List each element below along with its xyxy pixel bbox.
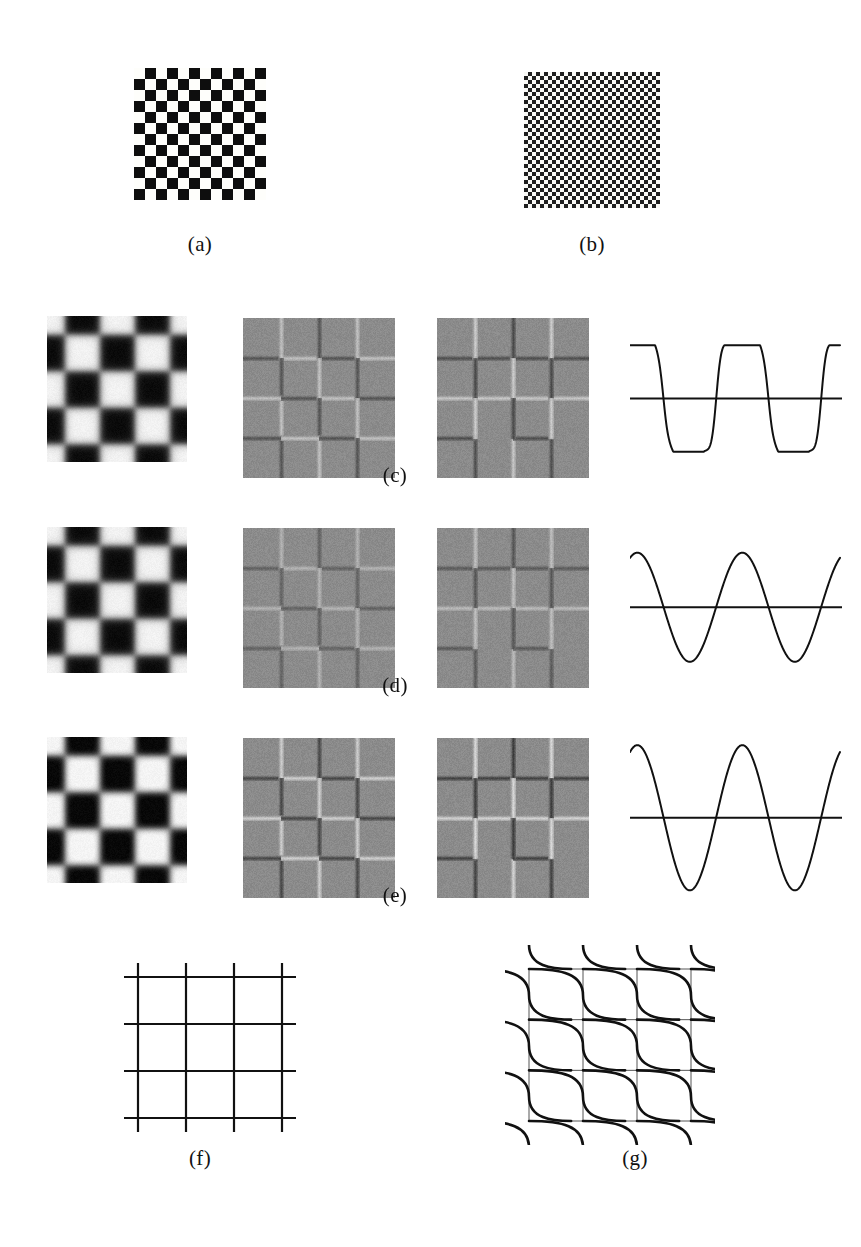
line-grid-panel-f: [110, 955, 310, 1140]
blurred-checkerboard-canvas-c: [47, 316, 187, 462]
edge-response-grid-orthogonal-row-e: [243, 738, 395, 898]
caption-g: (g): [595, 1146, 675, 1171]
checkerboard-coarse-panel-a: [134, 68, 266, 200]
edge-grid-canvas-e1: [243, 738, 395, 898]
edge-response-grid-staircase-row-c: [437, 318, 589, 478]
edge-grid-canvas-c1: [243, 318, 395, 478]
waveform-svg-c: [630, 316, 850, 466]
blurred-checkerboard-canvas-e: [47, 737, 187, 883]
figure-root: (a) (b) (c) (d) (e) (f): [0, 0, 861, 1247]
caption-a: (a): [150, 232, 250, 257]
waveform-row-e: [630, 727, 850, 892]
distorted-grid-svg-g: [505, 945, 715, 1145]
waveform-row-d: [630, 522, 850, 677]
caption-b: (b): [542, 232, 642, 257]
edge-grid-canvas-d2: [437, 528, 589, 688]
caption-e: (e): [345, 883, 445, 908]
waveform-svg-e: [630, 727, 850, 892]
caption-f: (f): [160, 1146, 240, 1171]
blurred-checkerboard-row-e: [47, 737, 187, 883]
waveform-svg-d: [630, 522, 850, 677]
caption-c: (c): [345, 463, 445, 488]
edge-response-grid-staircase-row-e: [437, 738, 589, 898]
line-grid-svg-f: [110, 955, 310, 1140]
blurred-checkerboard-row-c: [47, 316, 187, 462]
edge-response-grid-orthogonal-row-d: [243, 528, 395, 688]
waveform-row-c: [630, 316, 850, 466]
distorted-grid-panel-g: [505, 945, 715, 1145]
edge-grid-canvas-e2: [437, 738, 589, 898]
caption-d: (d): [345, 673, 445, 698]
checkerboard-fine-panel-b: [524, 72, 660, 208]
edge-grid-canvas-c2: [437, 318, 589, 478]
edge-grid-canvas-d1: [243, 528, 395, 688]
edge-response-grid-orthogonal-row-c: [243, 318, 395, 478]
blurred-checkerboard-row-d: [47, 527, 187, 673]
edge-response-grid-staircase-row-d: [437, 528, 589, 688]
blurred-checkerboard-canvas-d: [47, 527, 187, 673]
